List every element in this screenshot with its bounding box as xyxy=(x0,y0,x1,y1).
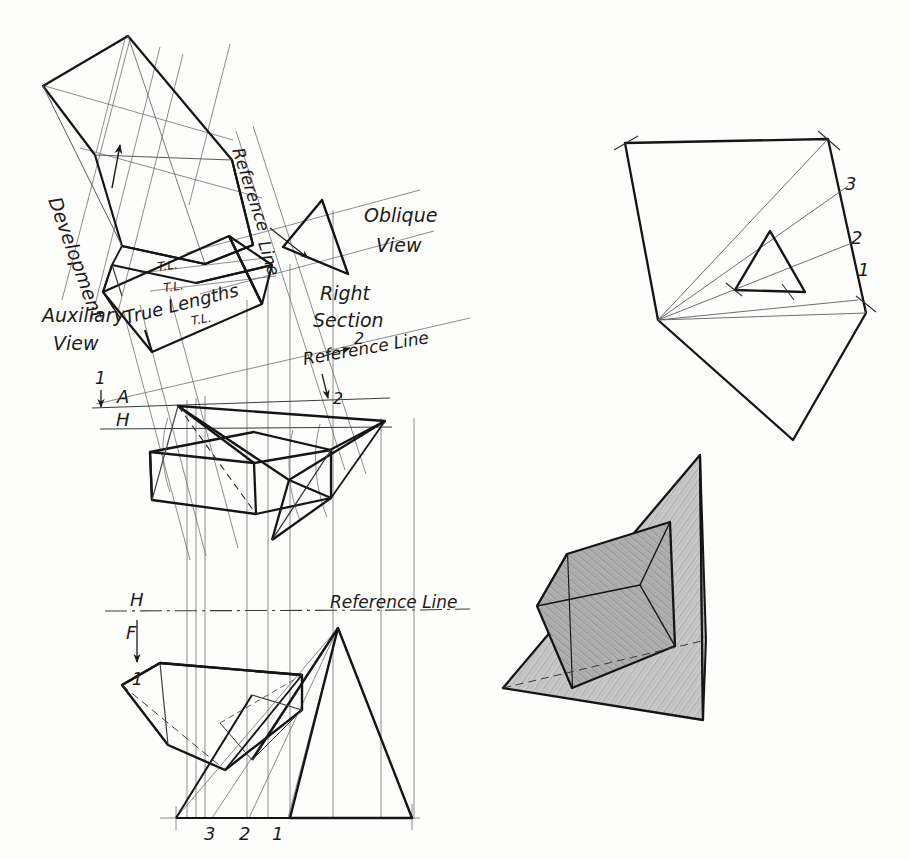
label-auxiliary-view: Auxiliary xyxy=(40,304,126,326)
marker-edge-1: 1 xyxy=(272,823,283,844)
label-plane-f: F xyxy=(126,622,137,643)
label-oblique-view: Oblique xyxy=(364,204,437,226)
marker-two-down: 2 xyxy=(333,389,343,408)
marker-one-top: 1 xyxy=(95,368,106,388)
label-reference-line-horizontal: Reference Line xyxy=(330,592,458,612)
marker-dev-2: 2 xyxy=(851,227,862,248)
marker-edge-2: 2 xyxy=(239,823,250,844)
label-plane-a: A xyxy=(116,386,129,407)
label-plane-h-top: H xyxy=(116,409,130,430)
label-right-section: Right xyxy=(320,282,372,304)
marker-edge-3: 3 xyxy=(204,823,215,844)
label-oblique-view-2: View xyxy=(376,234,422,256)
label-auxiliary-view-2: View xyxy=(53,332,99,354)
marker-one-front: 1 xyxy=(132,669,143,689)
label-tl-1: T.L. xyxy=(156,257,178,274)
paper-background xyxy=(0,0,909,859)
descriptive-geometry-plate: Development Reference Line Oblique View … xyxy=(0,0,909,859)
marker-dev-3: 3 xyxy=(845,173,856,194)
label-right-section-2: Section xyxy=(313,309,384,331)
marker-two-slant: 2 xyxy=(354,329,364,348)
marker-dev-1: 1 xyxy=(858,259,869,280)
label-tl-2: T.L. xyxy=(162,278,184,295)
label-plane-h-front: H xyxy=(130,589,144,610)
